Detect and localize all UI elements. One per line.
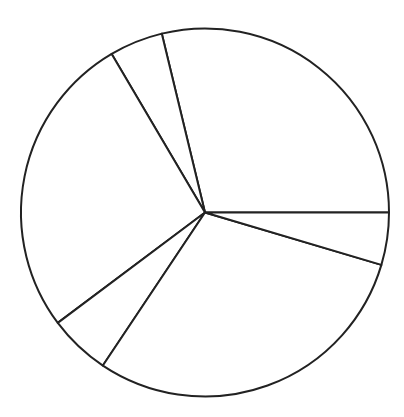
pie-slices xyxy=(21,28,389,396)
pie-chart xyxy=(0,0,404,417)
